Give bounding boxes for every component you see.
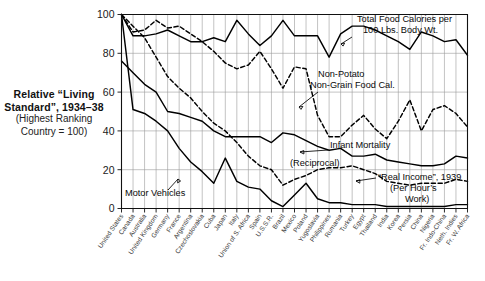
annot-infant-line-2: (Reciprocal) <box>290 158 340 168</box>
annot-motor-vehicles: Motor Vehicles <box>125 188 186 198</box>
figure-root: Relative “Living Standard”, 1934–38 (Hig… <box>0 0 485 281</box>
chart-side-title: Relative “Living Standard”, 1934–38 (Hig… <box>2 88 106 138</box>
title-line-4: Country = 100) <box>2 126 106 139</box>
y-tick-label: 80 <box>103 47 115 59</box>
y-tick-label: 20 <box>103 164 115 176</box>
annot-total-food-line-1: Total Food Calories per <box>357 14 452 24</box>
annotation-layer: Total Food Calories per 100 Lbs. Body Wt… <box>125 14 461 204</box>
leader-arrow-non-potato <box>299 106 303 109</box>
annot-non-potato-line-1: Non-Potato <box>318 69 364 79</box>
title-line-1: Relative “Living <box>2 88 106 101</box>
title-line-2: Standard”, 1934–38 <box>2 101 106 114</box>
line-chart: 020406080100 United StatesCanadaAustrali… <box>0 0 485 281</box>
annot-real-income-line-1: “Real Income”, 1939 <box>378 172 461 182</box>
leader-real-income <box>356 178 376 181</box>
y-tick-label: 0 <box>109 202 115 214</box>
annot-non-potato-line-2: Non-Grain Food Cal. <box>310 80 395 90</box>
title-line-3: (Highest Ranking <box>2 113 106 126</box>
annot-real-income-line-2: (Per Hour’s <box>390 183 437 193</box>
leader-arrow-real-income <box>356 180 360 184</box>
y-tick-label: 100 <box>97 8 115 20</box>
leader-total-food <box>341 37 352 44</box>
annot-infant-line-1: Infant Mortality <box>330 140 391 150</box>
leader-arrow-total-food <box>341 43 345 46</box>
annot-real-income-line-3: Work) <box>405 194 429 204</box>
annot-total-food-line-2: 100 Lbs. Body Wt. <box>363 25 438 35</box>
x-axis-ticks: United StatesCanadaAustraliaUnited Kingd… <box>96 209 470 259</box>
